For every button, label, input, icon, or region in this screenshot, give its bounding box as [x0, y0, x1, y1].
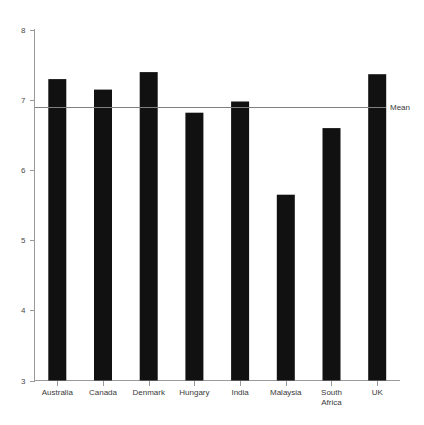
- chart-canvas: 345678 Mean AustraliaCanadaDenmarkHungar…: [0, 0, 424, 425]
- x-tick-label: Hungary: [179, 388, 209, 397]
- bar: [323, 128, 341, 380]
- y-axis: 345678: [21, 26, 34, 386]
- x-tick-label: India: [231, 388, 249, 397]
- y-tick-label: 8: [21, 26, 26, 35]
- y-tick-label: 4: [21, 306, 26, 315]
- x-tick-label: Africa: [321, 398, 342, 407]
- bars-group: [48, 72, 386, 380]
- bar: [368, 74, 386, 380]
- bar: [140, 72, 158, 380]
- mean-annotation: Mean: [35, 103, 411, 112]
- y-tick-label: 7: [21, 96, 26, 105]
- mean-line-label: Mean: [390, 103, 410, 112]
- bar: [277, 195, 295, 381]
- bar: [94, 90, 112, 381]
- x-tick-label: Australia: [42, 388, 74, 397]
- y-tick-label: 3: [21, 377, 26, 386]
- y-tick-group: 345678: [21, 26, 34, 386]
- x-tick-group: [58, 381, 378, 386]
- x-tick-label: UK: [372, 388, 384, 397]
- x-axis-labels: AustraliaCanadaDenmarkHungaryIndiaMalays…: [42, 388, 384, 407]
- bar-chart-figure: 345678 Mean AustraliaCanadaDenmarkHungar…: [0, 0, 424, 425]
- x-tick-label: Canada: [89, 388, 118, 397]
- y-tick-label: 5: [21, 236, 26, 245]
- bar: [48, 79, 66, 380]
- x-axis: [35, 381, 401, 386]
- x-tick-label: Malaysia: [270, 388, 302, 397]
- x-tick-label: Denmark: [132, 388, 165, 397]
- y-tick-label: 6: [21, 166, 26, 175]
- bar: [185, 113, 203, 381]
- x-tick-label: South: [321, 388, 342, 397]
- bar: [231, 102, 249, 381]
